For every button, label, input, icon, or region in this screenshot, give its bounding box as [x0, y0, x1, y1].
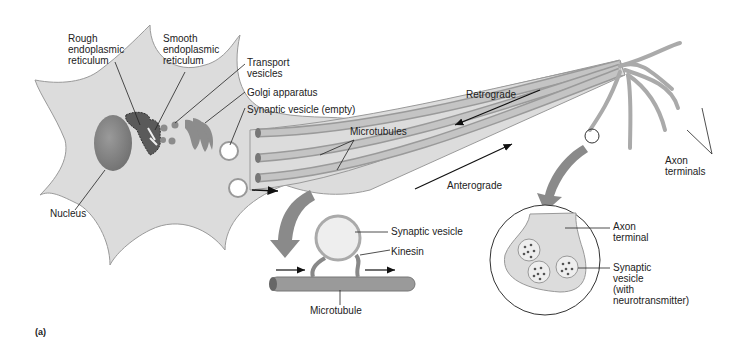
label-synaptic-vesicle-nt: Synaptic vesicle (with neurotransmitter) [613, 262, 689, 306]
label-line: Synaptic [613, 262, 689, 273]
label-axon-terminal: Axon terminal [613, 221, 649, 243]
label-synaptic-vesicle: Synaptic vesicle [391, 226, 463, 237]
panel-label: (a) [35, 327, 46, 338]
label-line: neurotransmitter) [613, 295, 689, 306]
label-anterograde: Anterograde [447, 180, 502, 191]
axon-terminal-branches [590, 43, 680, 148]
label-synaptic-vesicle-empty: Synaptic vesicle (empty) [247, 104, 355, 115]
label-line: endoplasmic [163, 44, 219, 55]
nucleus [94, 115, 132, 171]
label-line: vesicle [613, 273, 689, 284]
label-line: Axon [613, 221, 649, 232]
label-line: vesicles [247, 68, 289, 79]
synaptic-vesicle-moving [229, 179, 247, 197]
label-line: (with [613, 284, 689, 295]
label-line: endoplasmic [68, 44, 124, 55]
axon-terminal-highlight [585, 129, 599, 143]
zoom-arrow-right [537, 145, 588, 212]
label-microtubules: Microtubules [350, 126, 407, 137]
label-line: reticulum [68, 55, 124, 66]
synaptic-vesicle-empty [220, 142, 238, 160]
label-transport-vesicles: Transport vesicles [247, 57, 289, 79]
label-smooth-er: Smooth endoplasmic reticulum [163, 33, 219, 66]
label-nucleus: Nucleus [50, 208, 86, 219]
label-line: Transport [247, 57, 289, 68]
label-retrograde: Retrograde [466, 89, 516, 100]
zoom-arrow-left [270, 190, 315, 258]
label-line: terminals [665, 166, 706, 177]
label-kinesin: Kinesin [391, 246, 424, 257]
label-line: reticulum [163, 55, 219, 66]
label-microtubule: Microtubule [310, 305, 362, 316]
label-line: terminal [613, 232, 649, 243]
axon-terminal-inset [490, 205, 600, 315]
label-rough-er: Rough endoplasmic reticulum [68, 33, 124, 66]
label-golgi: Golgi apparatus [247, 87, 318, 98]
label-line: Rough [68, 33, 124, 44]
label-line: Axon [665, 155, 706, 166]
label-axon-terminals: Axon terminals [665, 155, 706, 177]
label-line: Smooth [163, 33, 219, 44]
